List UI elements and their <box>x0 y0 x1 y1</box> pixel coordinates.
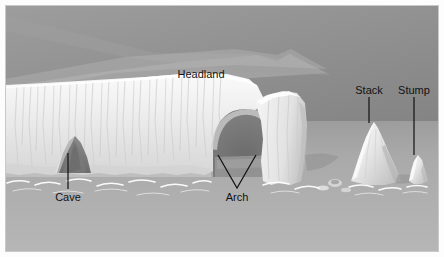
coastal-erosion-diagram: Headland Cave Arch Stack Stump <box>5 5 439 252</box>
label-cave: Cave <box>55 191 81 203</box>
label-headland: Headland <box>177 68 224 80</box>
label-arch: Arch <box>226 191 249 203</box>
figure-root: Headland Cave Arch Stack Stump <box>0 0 444 257</box>
label-stump: Stump <box>398 84 430 96</box>
label-stack: Stack <box>355 84 383 96</box>
